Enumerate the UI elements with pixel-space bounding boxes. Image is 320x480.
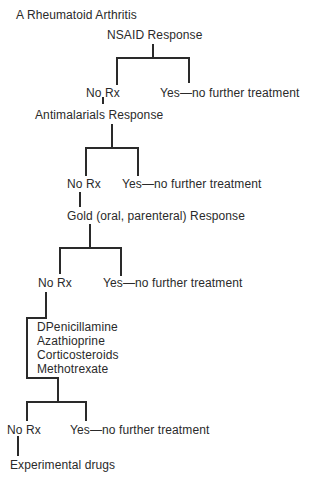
nsaid-no-branch: No Rx (86, 86, 120, 100)
flowchart-connectors (0, 0, 320, 480)
gold-response-node: Gold (oral, parenteral) Response (67, 209, 245, 223)
drug-dpenicillamine: DPenicillamine (37, 320, 118, 334)
gold-yes-branch: Yes—no further treatment (103, 276, 242, 290)
drug-corticosteroids: Corticosteroids (37, 348, 119, 362)
second-line-yes-branch: Yes—no further treatment (70, 423, 209, 437)
figure-title: A Rheumatoid Arthritis (16, 8, 137, 22)
antimalarials-response-node: Antimalarials Response (35, 108, 163, 122)
drug-methotrexate: Methotrexate (37, 362, 108, 376)
nsaid-yes-branch: Yes—no further treatment (160, 86, 299, 100)
experimental-drugs-node: Experimental drugs (10, 458, 115, 472)
drug-azathioprine: Azathioprine (37, 334, 105, 348)
antimalarials-yes-branch: Yes—no further treatment (122, 177, 261, 191)
second-line-no-branch: No Rx (7, 423, 41, 437)
antimalarials-no-branch: No Rx (67, 177, 101, 191)
gold-no-branch: No Rx (38, 276, 72, 290)
nsaid-response-node: NSAID Response (107, 28, 202, 42)
